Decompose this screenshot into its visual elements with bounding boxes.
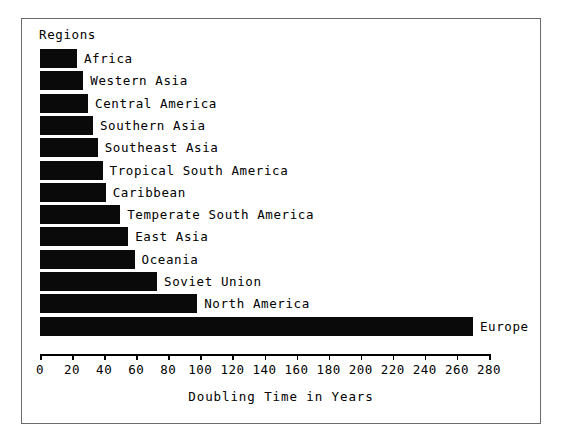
bar [40, 272, 157, 291]
x-tick [232, 354, 234, 360]
plot-area: Regions AfricaWestern AsiaCentral Americ… [22, 19, 540, 423]
x-tick-label: 60 [128, 362, 144, 377]
bar [40, 227, 128, 246]
bar-label: Caribbean [113, 183, 186, 202]
x-tick-label: 160 [285, 362, 309, 377]
bar-row: Tropical South America [40, 161, 288, 180]
x-tick [297, 354, 299, 360]
bar-label: East Asia [135, 227, 208, 246]
bar-label: Soviet Union [164, 272, 262, 291]
bar [40, 94, 88, 113]
bar-row: Africa [40, 49, 133, 68]
bar-label: North America [204, 294, 310, 313]
bar-row: Caribbean [40, 183, 186, 202]
bar-row: East Asia [40, 227, 208, 246]
x-tick [200, 354, 202, 360]
x-tick-label: 220 [381, 362, 405, 377]
y-axis-title: Regions [39, 27, 96, 42]
x-axis-title: Doubling Time in Years [22, 389, 540, 404]
bar-label: Central America [95, 94, 217, 113]
x-tick-label: 180 [317, 362, 341, 377]
bar [40, 161, 103, 180]
x-tick [104, 354, 106, 360]
bar [40, 71, 83, 90]
x-tick [425, 354, 427, 360]
bar-label: Tropical South America [110, 161, 289, 180]
x-tick [457, 354, 459, 360]
bar [40, 49, 77, 68]
bar-row: Southern Asia [40, 116, 206, 135]
x-tick-label: 20 [64, 362, 80, 377]
x-tick [40, 354, 42, 360]
bar [40, 205, 120, 224]
bar-row: Soviet Union [40, 272, 262, 291]
x-tick [265, 354, 267, 360]
x-tick [361, 354, 363, 360]
bar-label: Africa [84, 49, 133, 68]
bar-label: Europe [480, 317, 529, 336]
bar-label: Temperate South America [127, 205, 314, 224]
x-tick-label: 280 [477, 362, 501, 377]
x-tick [489, 354, 491, 360]
x-tick-label: 240 [413, 362, 437, 377]
bar-label: Oceania [142, 250, 199, 269]
bar-row: Central America [40, 94, 217, 113]
bar [40, 317, 473, 336]
bar-label: Southeast Asia [105, 138, 219, 157]
bar [40, 250, 135, 269]
bar [40, 183, 106, 202]
x-tick-label: 120 [220, 362, 244, 377]
bar-label: Western Asia [90, 71, 188, 90]
bar-row: North America [40, 294, 310, 313]
x-tick-label: 260 [445, 362, 469, 377]
bar-row: Southeast Asia [40, 138, 218, 157]
bar [40, 116, 93, 135]
bar-row: Temperate South America [40, 205, 314, 224]
x-tick [72, 354, 74, 360]
x-tick-label: 100 [188, 362, 212, 377]
x-tick-label: 80 [160, 362, 176, 377]
x-tick-label: 40 [96, 362, 112, 377]
x-tick [168, 354, 170, 360]
bar-row: Western Asia [40, 71, 188, 90]
chart-frame: Regions AfricaWestern AsiaCentral Americ… [21, 18, 541, 424]
bar-row: Oceania [40, 250, 199, 269]
x-tick-label: 140 [252, 362, 276, 377]
x-tick [136, 354, 138, 360]
bar [40, 138, 98, 157]
x-tick-label: 200 [349, 362, 373, 377]
x-tick [393, 354, 395, 360]
x-tick [329, 354, 331, 360]
bar [40, 294, 197, 313]
bar-label: Southern Asia [100, 116, 206, 135]
x-tick-label: 0 [36, 362, 44, 377]
bar-row: Europe [40, 317, 529, 336]
